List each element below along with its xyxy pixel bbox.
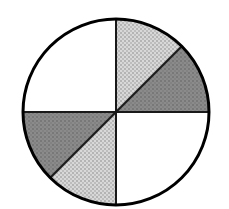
fraction-circle-diagram: Shaded fraction circle (0, 0, 229, 209)
figure-canvas: Shaded fraction circle (0, 0, 229, 209)
